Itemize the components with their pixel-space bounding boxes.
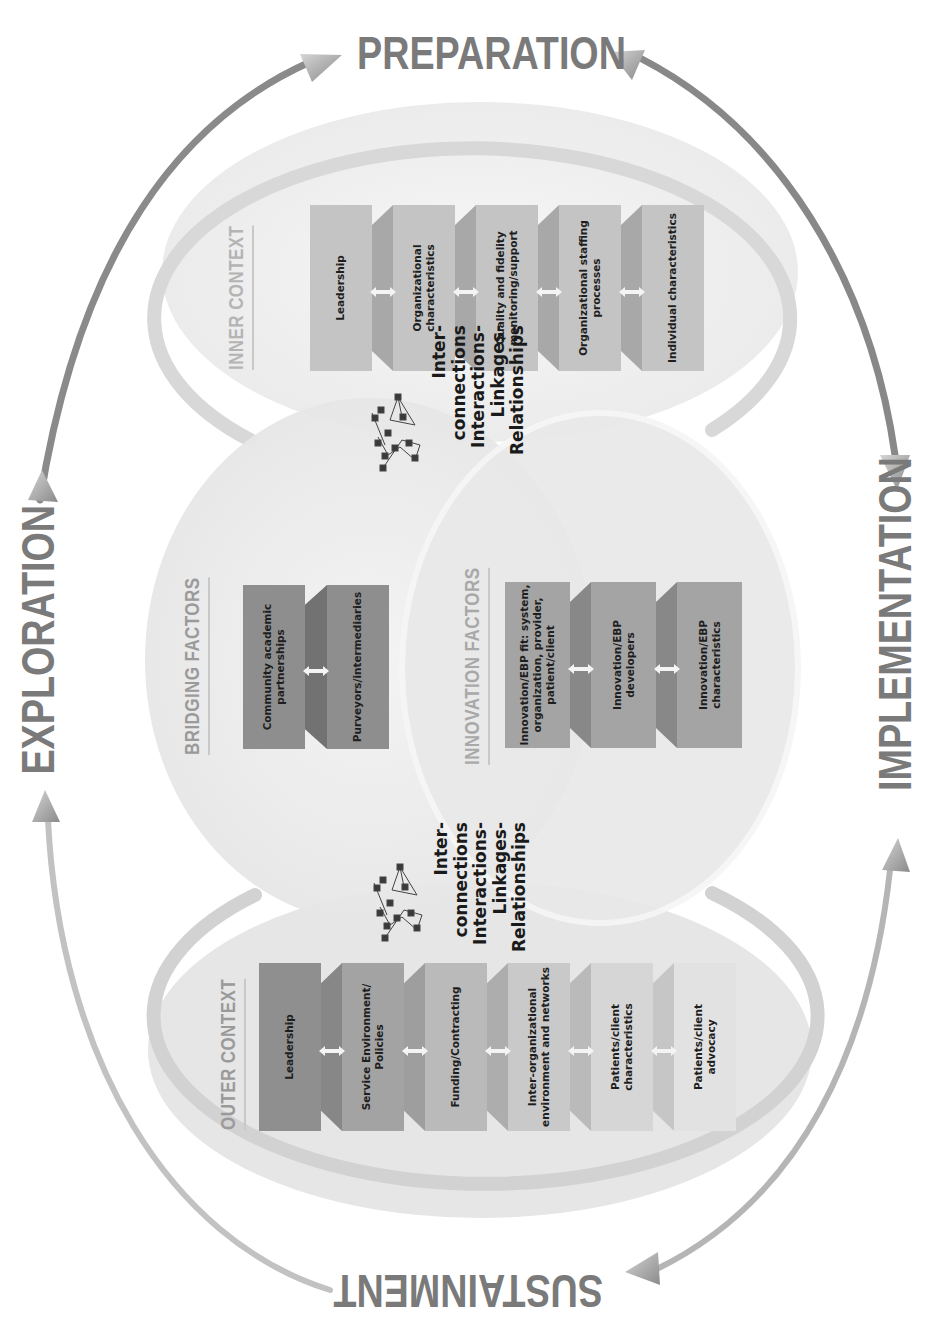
outer-context-box-label: Funding/Contracting: [449, 986, 462, 1107]
inner-context-box-label: Organizational staffingprocesses: [577, 220, 603, 356]
outer-context-box-label: Inter-organizationalenvironment and netw…: [526, 967, 552, 1127]
innovation-factors-box-label: Innovation/EBPcharacteristics: [696, 620, 722, 710]
double-arrow-icon: [568, 1042, 594, 1052]
interconnections-label-lower: Inter- connections Interactions- Linkage…: [432, 822, 530, 952]
inner-context-box-label: Organizationalcharacteristics: [411, 244, 437, 332]
inner-context-box-label: Individual characteristics: [666, 213, 679, 363]
bridging-factors-label: BRIDGING FACTORS: [182, 578, 210, 755]
double-arrow-icon: [568, 660, 594, 670]
innovation-factors-box-label: Innovation/EBP fit: system,organization,…: [518, 585, 557, 746]
innovation-factors-box: Innovation/EBPdevelopers: [591, 582, 656, 748]
bridging-factors-box: Purveyors/intermediaries: [327, 585, 389, 749]
innovation-factors-box: Innovation/EBP fit: system,organization,…: [505, 582, 570, 748]
double-arrow-icon: [319, 1042, 345, 1052]
double-arrow-icon: [654, 660, 680, 670]
inner-context-box-label: Leadership: [334, 255, 347, 321]
innovation-factors-box: Innovation/EBPcharacteristics: [677, 582, 742, 748]
double-arrow-icon: [402, 1042, 428, 1052]
outer-context-box: Inter-organizationalenvironment and netw…: [508, 963, 570, 1131]
outer-context-label: OUTER CONTEXT: [218, 979, 246, 1130]
inner-context-label: INNER CONTEXT: [226, 226, 254, 370]
outer-context-box: Patients/clientcharacteristics: [591, 963, 653, 1131]
double-arrow-icon: [370, 283, 396, 293]
outer-context-box: Funding/Contracting: [425, 963, 487, 1131]
outer-context-box-label: Patients/clientadvocacy: [692, 1004, 718, 1090]
bridging-factors-box: Community academicpartnerships: [243, 585, 305, 749]
outer-context-box: Leadership: [259, 963, 321, 1131]
double-arrow-icon: [651, 1042, 677, 1052]
phase-sustainment: SUSTAINMENT: [357, 1268, 603, 1314]
double-arrow-icon: [303, 662, 329, 672]
outer-context-box-label: Patients/clientcharacteristics: [609, 1003, 635, 1091]
bridging-factors-box-label: Community academicpartnerships: [261, 604, 287, 731]
phase-preparation: PREPARATION: [357, 30, 603, 76]
inner-context-box: Leadership: [310, 205, 372, 371]
double-arrow-icon: [485, 1042, 511, 1052]
inner-context-box: Organizational staffingprocesses: [559, 205, 621, 371]
innovation-factors-box-label: Innovation/EBPdevelopers: [610, 620, 636, 710]
double-arrow-icon: [536, 283, 562, 293]
innovation-factors-label: INNOVATION FACTORS: [462, 568, 490, 765]
outer-context-box-label: Service Environment/Policies: [360, 984, 386, 1111]
phase-exploration: EXPLORATION: [15, 561, 61, 774]
interconnections-label-upper: Inter- connections Interactions- Linkage…: [430, 325, 528, 455]
double-arrow-icon: [619, 283, 645, 293]
inner-context-box: Individual characteristics: [642, 205, 704, 371]
phase-implementation: IMPLEMENTATION: [872, 545, 918, 791]
outer-context-box: Service Environment/Policies: [342, 963, 404, 1131]
bridging-factors-box-label: Purveyors/intermediaries: [351, 592, 364, 742]
outer-context-box-label: Leadership: [283, 1014, 296, 1080]
outer-context-box: Patients/clientadvocacy: [674, 963, 736, 1131]
double-arrow-icon: [453, 283, 479, 293]
